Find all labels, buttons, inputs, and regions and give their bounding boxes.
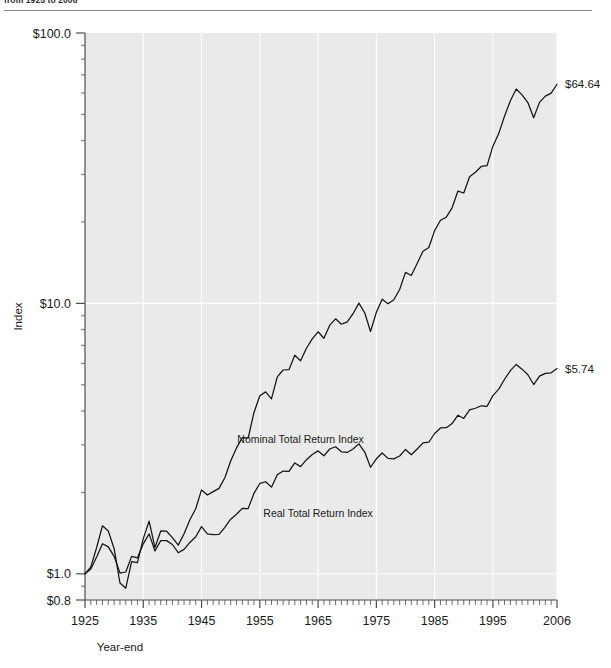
y-tick-label-$100.0: $100.0 [33, 27, 71, 41]
figure-container: from 1925 to 2006 $100.0$10.0$1.0$0.8 19… [0, 0, 611, 668]
x-axis-title: Year-end [97, 641, 143, 653]
x-tick-label-1995: 1995 [479, 614, 507, 628]
x-tick-label-1935: 1935 [129, 614, 157, 628]
y-axis-title: Index [12, 302, 24, 330]
real-end-value: $5.74 [565, 363, 594, 375]
y-tick-label-$10.0: $10.0 [40, 297, 71, 311]
x-tick-label-1955: 1955 [246, 614, 274, 628]
end-value-annotations: $64.64$5.74 [565, 78, 601, 374]
y-axis-tick-labels: $100.0$10.0$1.0$0.8 [33, 27, 71, 608]
nominal-end-value: $64.64 [565, 78, 601, 90]
y-tick-label-$0.8: $0.8 [47, 594, 71, 608]
x-tick-label-1945: 1945 [188, 614, 216, 628]
line-chart: $100.0$10.0$1.0$0.8 19251935194519551965… [0, 0, 611, 668]
x-tick-label-1965: 1965 [304, 614, 332, 628]
series-label-real: Real Total Return Index [263, 507, 373, 519]
x-tick-label-2006: 2006 [543, 614, 571, 628]
x-tick-label-1985: 1985 [421, 614, 449, 628]
y-tick-label-$1.0: $1.0 [47, 567, 71, 581]
series-label-nominal: Nominal Total Return Index [237, 433, 364, 445]
x-tick-label-1925: 1925 [71, 614, 99, 628]
title-divider-rule [4, 10, 592, 11]
x-tick-label-1975: 1975 [362, 614, 390, 628]
x-axis-tick-labels: 192519351945195519651975198519952006 [71, 614, 571, 628]
figure-title: from 1925 to 2006 [4, 0, 78, 5]
x-axis-minor-ticks [85, 600, 557, 605]
